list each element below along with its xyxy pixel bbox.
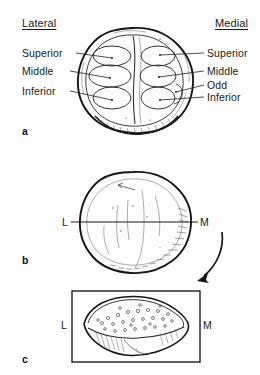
cross-section-bevel-hatch-c xyxy=(96,329,178,352)
patella-inner-contour-b xyxy=(87,179,182,265)
facet-medial-inferior xyxy=(141,87,175,109)
anatomy-figure: Lateral Medial Superior Middle Inferior … xyxy=(0,0,260,375)
panel-a-label-lateral-inferior: Inferior xyxy=(22,86,55,97)
panel-a-label-lateral-superior: Superior xyxy=(22,48,63,59)
panel-b-label-lateral: L xyxy=(62,217,68,228)
panel-a-label-medial-superior: Superior xyxy=(207,48,248,59)
panel-b-label-medial: M xyxy=(200,217,209,228)
panel-c-frame xyxy=(72,291,200,362)
panel-c-label-lateral: L xyxy=(61,320,67,331)
panel-a-label-lateral-middle: Middle xyxy=(22,66,54,77)
patella-outline-b xyxy=(80,172,191,273)
patella-articular-rim-a xyxy=(86,35,183,126)
panel-c-label-medial: M xyxy=(203,320,212,331)
facet-medial-superior xyxy=(141,46,175,66)
facet-lateral-superior xyxy=(93,46,131,66)
patella-edge-shading-a xyxy=(82,31,189,118)
patella-medial-bevel-hatch-b xyxy=(110,208,188,269)
panel-a-leader-lines-right xyxy=(159,53,204,100)
facet-odd xyxy=(174,84,182,104)
panel-letter-b: b xyxy=(22,255,28,266)
panel-letter-a: a xyxy=(22,126,28,137)
cross-section-cortex-c xyxy=(88,300,184,327)
panel-letter-c: c xyxy=(22,354,28,365)
patella-median-ridge-shadow xyxy=(139,37,141,124)
patella-texture-mark-b xyxy=(118,185,135,190)
panel-a-leader-dots-right xyxy=(158,54,177,101)
patella-texture-arrowhead-b xyxy=(118,183,123,188)
cancellous-bone-stipple-c xyxy=(97,304,174,333)
patella-surface-lines-b xyxy=(104,190,160,268)
cross-section-midline-c xyxy=(88,327,184,338)
cross-section-keel-detail-c xyxy=(136,348,142,355)
patella-stipple-b xyxy=(112,205,160,247)
panel-a-label-medial-middle: Middle xyxy=(207,66,239,77)
patella-stipple-a xyxy=(104,38,169,120)
facet-lateral-inferior xyxy=(93,87,131,109)
cross-section-keel-c xyxy=(124,340,152,354)
panel-c-box-and-section xyxy=(72,291,200,362)
panel-b-patella-drawing xyxy=(71,172,198,273)
patella-apex-hatching xyxy=(101,119,171,134)
panel-a-header-lateral: Lateral xyxy=(22,18,56,29)
panel-a-header-medial: Medial xyxy=(215,18,248,29)
panel-b-to-c-arrow xyxy=(197,232,222,283)
facet-medial-middle xyxy=(140,65,176,87)
facet-lateral-middle xyxy=(89,65,131,87)
patella-apex-edge xyxy=(95,116,178,134)
panel-a-patella-drawing xyxy=(70,28,204,134)
panel-a-label-medial-inferior: Inferior xyxy=(207,92,240,103)
panel-a-leader-lines-left xyxy=(70,53,112,100)
panel-a-leader-dots-left xyxy=(109,57,113,101)
patella-median-ridge xyxy=(133,36,135,124)
cross-section-outline-c xyxy=(84,297,189,356)
panel-a-label-medial-odd: Odd xyxy=(207,80,227,91)
patella-outline-a xyxy=(78,28,193,133)
